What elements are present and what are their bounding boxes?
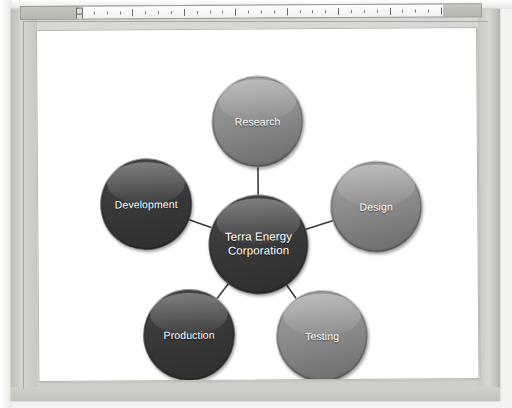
ruler-tick xyxy=(120,11,121,14)
ruler-tick xyxy=(158,11,159,14)
ruler-tick xyxy=(184,9,185,16)
ruler-tick xyxy=(364,10,365,13)
diagram-node-label: Production xyxy=(157,329,220,342)
ruler-tick xyxy=(402,10,403,13)
application-window: ResearchDesignDevelopmentProductionTesti… xyxy=(0,0,512,408)
ruler-tick xyxy=(210,11,211,14)
ruler-tick xyxy=(287,8,288,15)
diagram-node-production[interactable]: Production xyxy=(143,289,236,382)
connector-center-to-testing xyxy=(286,285,296,300)
diagram-node-testing[interactable]: Testing xyxy=(276,290,369,382)
ruler-tick xyxy=(145,11,146,14)
diagram-node-research[interactable]: Research xyxy=(211,75,304,168)
ruler-tick xyxy=(428,10,429,13)
ruler-tick xyxy=(377,10,378,13)
ruler-tick xyxy=(325,10,326,13)
ruler-tick xyxy=(274,10,275,13)
ruler-tick xyxy=(338,8,339,15)
ruler-tick xyxy=(235,9,236,16)
ruler-tick xyxy=(107,11,108,14)
ruler-tick xyxy=(94,12,95,15)
connector-center-to-production xyxy=(216,283,228,299)
connector-center-to-development xyxy=(189,219,213,228)
diagram-node-label: Testing xyxy=(299,330,345,343)
diagram-node-label: Research xyxy=(229,115,287,128)
horizontal-ruler[interactable] xyxy=(20,3,482,20)
frame-bottom-band xyxy=(11,387,500,401)
ruler-tick xyxy=(300,10,301,13)
diagram-node-design[interactable]: Design xyxy=(330,160,423,253)
diagram-node-label: Terra EnergyCorporation xyxy=(219,231,298,259)
diagram-node-label: Development xyxy=(109,198,184,211)
connector-center-to-design xyxy=(305,220,333,229)
ruler-tick xyxy=(441,7,442,14)
radial-diagram[interactable]: ResearchDesignDevelopmentProductionTesti… xyxy=(37,28,479,382)
ruler-tick xyxy=(390,8,391,15)
ruler-tick xyxy=(171,11,172,14)
diagram-node-center[interactable]: Terra EnergyCorporation xyxy=(208,194,309,295)
ruler-tick xyxy=(222,11,223,14)
diagram-node-label: Design xyxy=(354,200,399,213)
ruler-tick xyxy=(351,10,352,13)
ruler-tick xyxy=(248,11,249,14)
ruler-tick-marks xyxy=(21,4,481,19)
ruler-tick xyxy=(197,11,198,14)
diagram-node-development[interactable]: Development xyxy=(100,158,193,251)
ruler-tick xyxy=(415,10,416,13)
ruler-tick xyxy=(261,11,262,14)
document-page[interactable]: ResearchDesignDevelopmentProductionTesti… xyxy=(36,27,479,382)
left-indent-marker[interactable] xyxy=(76,14,83,20)
ruler-tick xyxy=(132,9,133,16)
ruler-tick xyxy=(312,10,313,13)
